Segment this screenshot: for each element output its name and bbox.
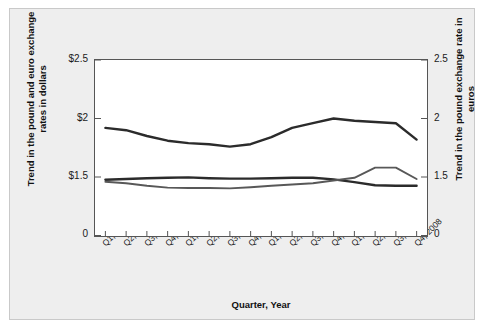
y-axis-right-tick-label: 1.5 [434, 170, 448, 181]
y-axis-right-tick-label: 2.5 [434, 53, 448, 64]
y-axis-left-tick-label: $2 [42, 112, 88, 123]
y-axis-left-tick-label: $2.5 [42, 53, 88, 64]
y-axis-left-title: Trend in the pound and euro exchange rat… [25, 10, 49, 188]
x-axis-title: Quarter, Year [94, 299, 428, 311]
y-axis-left-tick-label: $1.5 [42, 170, 88, 181]
y-axis-right-tick-label: 2 [434, 112, 440, 123]
y-axis-left-tick-label: 0 [42, 228, 88, 239]
series-line-pound-euro [105, 177, 416, 185]
chart-lines [95, 60, 427, 236]
series-line-british-pound [105, 119, 416, 147]
y-axis-right-title: Trend in the pound exchange rate in euro… [453, 10, 477, 188]
chart-figure: Trend in the pound and euro exchange rat… [9, 8, 475, 320]
plot-area [94, 59, 428, 237]
